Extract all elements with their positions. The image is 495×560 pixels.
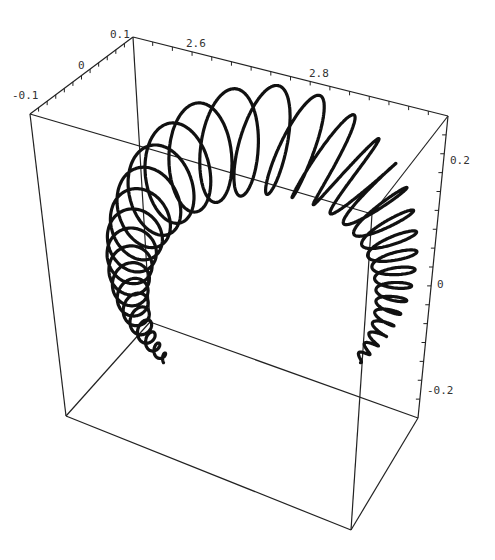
box-edge-bottom-right-depth: [351, 418, 418, 530]
coil-3d-plot: -0.100.12.62.80.20-0.2: [0, 0, 495, 560]
box-edge-top-right-depth: [372, 116, 448, 214]
box-edge-front-right-vertical: [351, 214, 372, 530]
zaxis-tick-label: 0.2: [450, 154, 470, 167]
xaxis-tick-label: 2.8: [309, 67, 329, 80]
depth-tick-label: 0: [78, 59, 85, 72]
xaxis-tick-label: 2.6: [186, 37, 206, 50]
zaxis-tick-label: 0: [437, 278, 444, 291]
coil-curve: [107, 86, 417, 363]
box-edge-front-bottom: [66, 416, 351, 530]
box-edge-front-left-vertical: [30, 114, 66, 416]
depth-tick-label: 0.1: [110, 28, 130, 41]
box-edge-back-bottom: [150, 322, 418, 418]
zaxis-tick-label: -0.2: [427, 384, 454, 397]
depth-tick-label: -0.1: [12, 89, 39, 102]
coil-path: [107, 86, 417, 363]
